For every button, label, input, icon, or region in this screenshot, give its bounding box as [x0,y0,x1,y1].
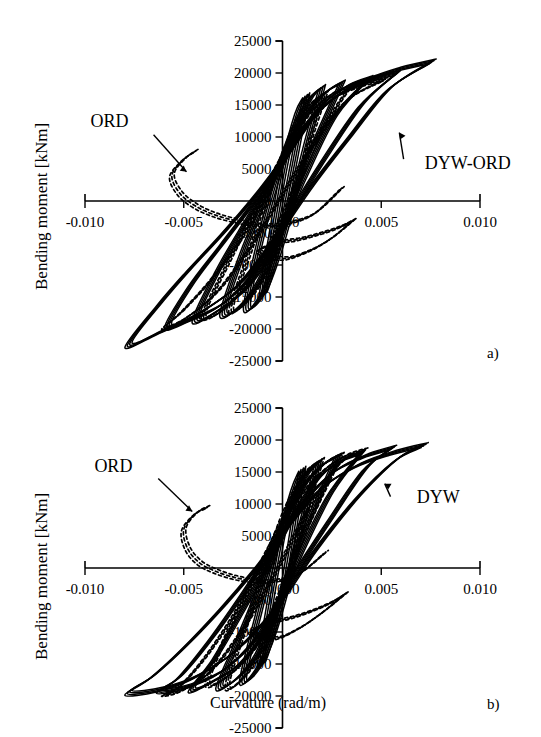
annotation-label: ORD [90,111,128,131]
x-tick-label: -0.010 [66,214,105,230]
y-tick-label: -15000 [229,289,272,305]
y-tick-label: 25000 [234,400,272,416]
annotation-label: DYW-ORD [425,153,511,173]
x-axis-label: Curvature (rad/m) [210,694,326,712]
x-tick-label: 0.005 [364,581,398,597]
x-tick-label: 0.005 [364,214,398,230]
plot-area-b: -0.010-0.0050.0000.0050.010-25000-20000-… [0,367,541,737]
y-tick-label: -5000 [237,225,272,241]
y-tick-label: -10000 [229,257,272,273]
y-tick-label: 10000 [234,496,272,512]
y-tick-label: -25000 [229,720,272,736]
y-tick-label: 15000 [234,97,272,113]
y-tick-label: 20000 [234,432,272,448]
y-tick-label: -5000 [237,592,272,608]
annotation-label: DYW [417,487,460,507]
x-tick-label: -0.005 [164,581,203,597]
x-tick-label: 0.010 [463,214,497,230]
panel-letter-b: b) [487,696,500,713]
y-tick-label: -20000 [229,321,272,337]
x-tick-label: -0.010 [66,581,105,597]
data-series-group [125,59,436,349]
x-tick-label: -0.005 [164,214,203,230]
y-tick-label: -15000 [229,656,272,672]
annotation-arrowhead [399,133,405,140]
x-tick-label: 0.010 [463,581,497,597]
annotation-leader-line [154,135,187,172]
y-tick-label: 0 [264,560,272,576]
y-tick-label: 10000 [234,129,272,145]
chart-panel-a: Bending moment [kNm] -0.010-0.0050.0000.… [0,0,541,370]
y-axis-label-a: Bending moment [kNm] [32,123,52,290]
dyw-curve [159,449,392,693]
plot-area-a: -0.010-0.0050.0000.0050.010-25000-20000-… [0,0,541,370]
annotation-label: ORD [94,456,132,476]
annotation-leader-line [158,479,192,512]
annotation-arrowhead [180,165,187,171]
y-tick-label: 5000 [242,528,272,544]
y-tick-label: 5000 [242,161,272,177]
data-series-group [125,443,428,697]
chart-panel-b: Bending moment [kNm] -0.010-0.0050.0000.… [0,367,541,737]
y-axis-label-b: Bending moment [kNm] [32,493,52,660]
figure-container: Bending moment [kNm] -0.010-0.0050.0000.… [0,0,541,737]
y-tick-label: 0 [264,193,272,209]
y-tick-label: 20000 [234,65,272,81]
y-tick-label: 15000 [234,464,272,480]
y-tick-label: 25000 [234,33,272,49]
annotations: ORDDYW [94,456,459,511]
panel-letter-a: a) [487,345,499,362]
axes [85,408,480,728]
y-tick-label: -10000 [229,624,272,640]
